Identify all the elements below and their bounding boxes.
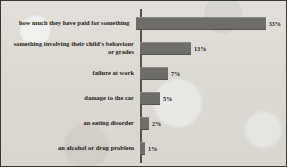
bar-row: an eating disorder 2% [7,111,281,135]
bar-track: 1% [140,136,281,160]
bar-row: an alcohol or drug problem 1% [7,136,281,160]
bar-track: 7% [140,61,281,85]
bar-track: 5% [140,86,281,110]
bar-category-label: an alcohol or drug problem [7,144,138,152]
bar-track: 2% [140,111,281,135]
bar-category-label: damage to the car [7,94,138,102]
bar-value-label: 7% [171,70,180,77]
bar-track: 13% [140,36,281,60]
bar-value-label: 2% [152,120,161,127]
bar-category-label: an eating disorder [7,119,138,127]
bar-value-label: 1% [148,145,157,152]
bar-row: how much they have paid for something 33… [7,11,281,35]
bar-category-label: how much they have paid for something [7,19,134,27]
bar-row: something involving their child's behavi… [7,36,281,60]
bar-track: 33% [136,11,281,35]
bar-value [140,42,191,55]
bar-value [140,142,145,155]
bar-value [140,92,160,105]
bar-value [140,67,168,80]
plot-area: how much they have paid for something 33… [7,5,281,161]
bar-value-label: 5% [163,95,172,102]
bar-chart-figure: how much they have paid for something 33… [0,0,287,167]
bar-row: damage to the car 5% [7,86,281,110]
bar-value-label: 33% [269,20,281,27]
bar-row: failure at work 7% [7,61,281,85]
bar-category-label: something involving their child's behavi… [7,40,138,55]
bar-value [136,17,266,30]
bar-category-label: failure at work [7,69,138,77]
bar-value-label: 13% [194,45,206,52]
bar-value [140,117,149,130]
